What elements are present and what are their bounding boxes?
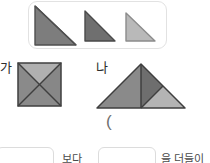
answer-separator-text: 보다 [62, 154, 82, 163]
reference-triangle-medium-dark [83, 9, 117, 43]
answer-input-2[interactable] [98, 147, 156, 163]
figure-na-triangle [95, 62, 187, 110]
answer-row: 보다 을 더들이 [0, 147, 210, 163]
answer-input-1[interactable] [0, 147, 54, 163]
reference-triangle-large-dark [33, 4, 78, 47]
reference-triangle-small-light [124, 11, 157, 43]
open-paren: ( [106, 113, 112, 130]
figure-label-ga: 가 [0, 61, 12, 74]
answer-trailing-text: 을 더들이 [161, 154, 204, 163]
figure-ga-square [16, 61, 63, 108]
